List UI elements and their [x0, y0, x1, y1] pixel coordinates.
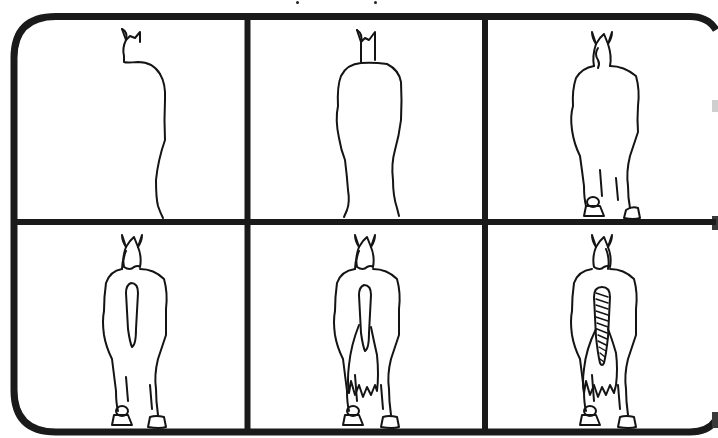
- horse-head-side: [123, 40, 160, 74]
- horse-legs: [126, 377, 152, 409]
- panel-step-4: [18, 225, 244, 429]
- title-fragment-dot: [374, 1, 377, 4]
- horse-ears: [122, 235, 142, 247]
- horse-hooves: [584, 197, 640, 219]
- tail-dock: [359, 285, 371, 351]
- braided-tail: [594, 287, 610, 365]
- horse-body-right-side: [156, 74, 165, 218]
- horse-ears: [122, 29, 140, 42]
- title-fragment-dot: [296, 1, 299, 4]
- horse-body-outline: [334, 269, 400, 415]
- horse-ears: [357, 30, 375, 42]
- horse-neck: [361, 42, 375, 62]
- panel-step-5: [251, 225, 482, 429]
- panel-step-1: [18, 20, 244, 219]
- horse-mane: [596, 48, 599, 68]
- panel-step-3: [488, 20, 714, 219]
- tail-hair: [348, 325, 378, 397]
- horse-ears: [592, 32, 612, 44]
- tail-dock: [126, 283, 138, 347]
- panel-step-6: [488, 225, 714, 429]
- horse-body-outline: [337, 63, 402, 217]
- panel-step-2: [251, 20, 482, 219]
- horse-ears: [592, 235, 612, 247]
- horse-ears: [355, 235, 375, 247]
- horse-legs: [600, 170, 618, 200]
- horse-body-outline: [571, 66, 638, 208]
